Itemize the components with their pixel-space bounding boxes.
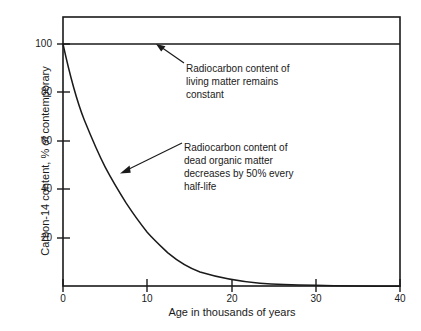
y-axis-title: Carbon-14 content, % of contemporary xyxy=(39,36,51,286)
annotation-dead-organic-matter: Radiocarbon content of dead organic matt… xyxy=(184,141,294,193)
annotation-living-matter: Radiocarbon content of living matter rem… xyxy=(186,62,289,101)
x-tick-label-10: 10 xyxy=(137,294,157,304)
x-tick-label-30: 30 xyxy=(306,294,326,304)
x-tick-label-0: 0 xyxy=(53,294,73,304)
carbon-14-decay-chart: 100 80 60 40 20 0 10 20 30 40 Age in tho… xyxy=(0,0,421,331)
x-axis-title: Age in thousands of years xyxy=(63,306,401,318)
x-tick-label-20: 20 xyxy=(222,294,242,304)
x-tick-label-40: 40 xyxy=(390,294,410,304)
